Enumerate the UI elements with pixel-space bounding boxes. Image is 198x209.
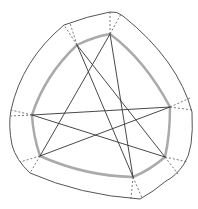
chord-bottom-left-right [40, 107, 170, 156]
inner-curve [32, 34, 170, 177]
chords [32, 34, 170, 177]
chord-top-bottom [110, 34, 133, 177]
reuleaux-polygon-diagram [0, 0, 198, 209]
dashed-line-right-1 [170, 107, 192, 110]
dashed-line-left-1 [11, 115, 32, 116]
dashed-line-top-1 [110, 14, 121, 34]
dashed-line-right-0 [170, 98, 190, 107]
dashed-line-top-left-1 [70, 23, 77, 45]
dashed-line-left-0 [11, 110, 32, 115]
dashed-line-bottom-right-1 [165, 157, 178, 174]
outer-boundary [10, 12, 193, 199]
chord-left-right [32, 107, 170, 115]
dashed-line-bottom-0 [131, 177, 133, 199]
dashed-fans [11, 12, 192, 199]
dashed-line-bottom-1 [133, 177, 142, 198]
dashed-line-top-left-0 [64, 25, 77, 45]
chord-bottom-left-top [40, 34, 110, 156]
chord-top-left-bottom [77, 45, 133, 177]
